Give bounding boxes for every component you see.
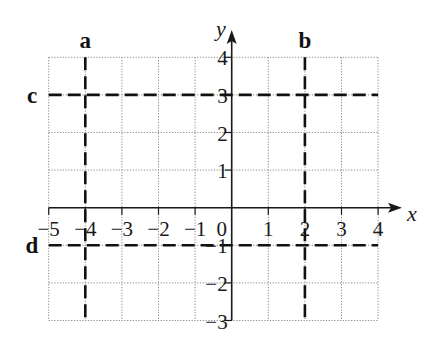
x-tick-label: 1	[263, 217, 274, 241]
coordinate-plane: abcd−5−4−3−2−1012344321−1−2−3xy	[0, 0, 430, 341]
y-tick-label: −1	[205, 234, 227, 258]
line-label-b: b	[299, 28, 312, 53]
line-label-c: c	[27, 83, 37, 108]
y-tick-label: 1	[217, 159, 228, 183]
x-tick-label: 3	[336, 217, 347, 241]
y-tick-label: −3	[205, 310, 227, 334]
x-tick-label: −4	[74, 217, 97, 241]
line-label-a: a	[80, 28, 92, 53]
x-tick-label: −2	[147, 217, 169, 241]
x-tick-label: −3	[111, 217, 133, 241]
x-tick-label: −5	[38, 217, 60, 241]
y-tick-label: −2	[205, 272, 227, 296]
y-tick-label: 2	[217, 122, 228, 146]
y-tick-label: 3	[217, 84, 228, 108]
y-tick-label: 4	[217, 46, 228, 70]
x-tick-label: 4	[373, 217, 384, 241]
x-axis-name: x	[406, 201, 417, 226]
x-tick-label: 2	[300, 217, 311, 241]
x-tick-label: −1	[184, 217, 206, 241]
y-axis-name: y	[214, 16, 226, 41]
